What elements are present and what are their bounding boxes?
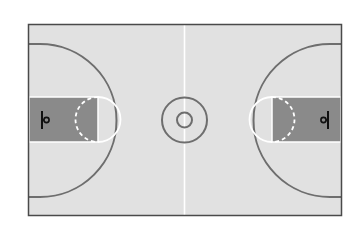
left-key — [29, 97, 98, 142]
basketball-court-diagram — [0, 0, 361, 231]
right-key — [272, 97, 341, 142]
